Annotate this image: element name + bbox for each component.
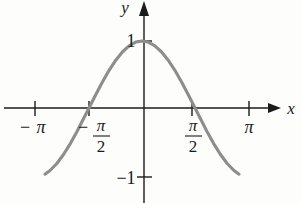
minus-sign-glyph: − xyxy=(20,117,30,137)
cosine-graph: y x 1 −1 − π − π 2 π 2 π xyxy=(0,0,301,203)
y-axis-label: y xyxy=(119,0,129,17)
x-axis-label: x xyxy=(286,99,295,118)
arrow-up-icon xyxy=(139,1,149,16)
pi-glyph: π xyxy=(36,117,46,137)
pi-glyph: π xyxy=(97,116,106,135)
figure-canvas: y x 1 −1 − π − π 2 π 2 π xyxy=(0,0,301,203)
arrow-right-icon xyxy=(268,103,281,113)
pi-glyph: π xyxy=(189,116,198,135)
denominator-glyph: 2 xyxy=(97,137,106,156)
x-tick-label-pi-over-2: π 2 xyxy=(185,116,202,156)
x-tick-label-neg-pi-over-2: − π 2 xyxy=(78,116,110,156)
x-tick-label-pi: π xyxy=(244,117,254,137)
denominator-glyph: 2 xyxy=(189,137,198,156)
minus-sign-glyph: − xyxy=(78,117,88,137)
x-tick-label-neg-pi: − π xyxy=(20,117,47,137)
y-tick-label-negative-one: −1 xyxy=(116,168,135,188)
y-tick-label-one: 1 xyxy=(127,31,136,51)
